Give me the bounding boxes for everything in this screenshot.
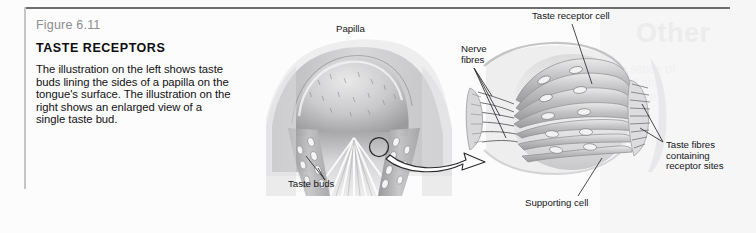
label-taste-receptor-cell: Taste receptor cell bbox=[532, 11, 610, 22]
taste-bud-cells bbox=[514, 59, 635, 162]
magnification-arrow bbox=[386, 153, 485, 172]
scan-ghost-line-2: smell and bbox=[610, 76, 661, 90]
magnification-circle bbox=[370, 138, 389, 157]
papilla-illustration bbox=[266, 39, 452, 196]
taste-bud-ovals-right bbox=[381, 137, 411, 190]
figure-left-rule bbox=[24, 7, 26, 189]
label-papilla: Papilla bbox=[336, 24, 365, 35]
taste-receptor-cell-leader-line bbox=[572, 24, 592, 84]
nerve-fibres-leader-lines bbox=[474, 68, 506, 138]
figure-top-rule bbox=[24, 7, 730, 9]
taste-buds-leader-lines bbox=[306, 156, 325, 180]
label-supporting-cell: Supporting cell bbox=[525, 198, 588, 209]
label-taste-buds: Taste buds bbox=[288, 179, 334, 190]
taste-fibres-leader-lines bbox=[640, 104, 663, 142]
scan-ghost-line-3: taste are bbox=[610, 90, 657, 104]
figure-panel: Other the sense of smell and taste are F… bbox=[0, 0, 756, 233]
scan-ghost-title: Other bbox=[636, 18, 711, 49]
figure-title: TASTE RECEPTORS bbox=[36, 41, 232, 55]
label-taste-fibres-receptor-sites: Taste fibres containing receptor sites bbox=[666, 140, 723, 172]
figure-caption: Figure 6.11 TASTE RECEPTORS The illustra… bbox=[36, 18, 232, 126]
figure-number: Figure 6.11 bbox=[36, 18, 232, 32]
nerve-fibre-strands bbox=[476, 92, 518, 142]
figure-body-text: The illustration on the left shows taste… bbox=[36, 63, 232, 126]
scan-ghost-line-1: the sense of bbox=[610, 62, 675, 76]
nerve-bundle-striations bbox=[471, 94, 482, 143]
label-nerve-fibres: Nerve fibres bbox=[461, 44, 487, 65]
taste-pore-microvilli bbox=[628, 80, 650, 156]
papilla-surface-texture bbox=[310, 72, 396, 117]
cell-nuclei bbox=[537, 65, 597, 154]
scan-ghost-band bbox=[600, 0, 756, 233]
nerve-bundle bbox=[466, 88, 482, 150]
taste-bud-enlarged-illustration bbox=[466, 43, 666, 174]
supporting-cell-leader-line bbox=[578, 158, 602, 196]
